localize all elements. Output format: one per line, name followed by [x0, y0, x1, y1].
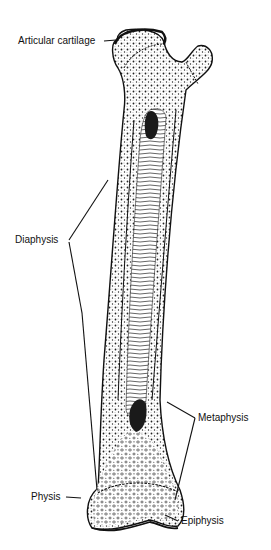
- leader-metaphysis-upper: [167, 402, 195, 418]
- leader-physis: [66, 497, 81, 498]
- label-diaphysis: Diaphysis: [15, 234, 58, 246]
- label-epiphysis: Epiphysis: [181, 515, 224, 527]
- leader-diaphysis-upper: [69, 180, 108, 240]
- label-physis: Physis: [31, 491, 60, 503]
- label-metaphysis: Metaphysis: [198, 412, 249, 424]
- leader-diaphysis-lower: [69, 242, 82, 313]
- leader-diaphysis-lower-ext: [82, 313, 97, 490]
- leader-metaphysis-lower: [175, 418, 195, 500]
- femur-diagram: [0, 0, 271, 550]
- label-articular-cartilage: Articular cartilage: [18, 35, 95, 47]
- leader-articular-cartilage: [104, 40, 116, 41]
